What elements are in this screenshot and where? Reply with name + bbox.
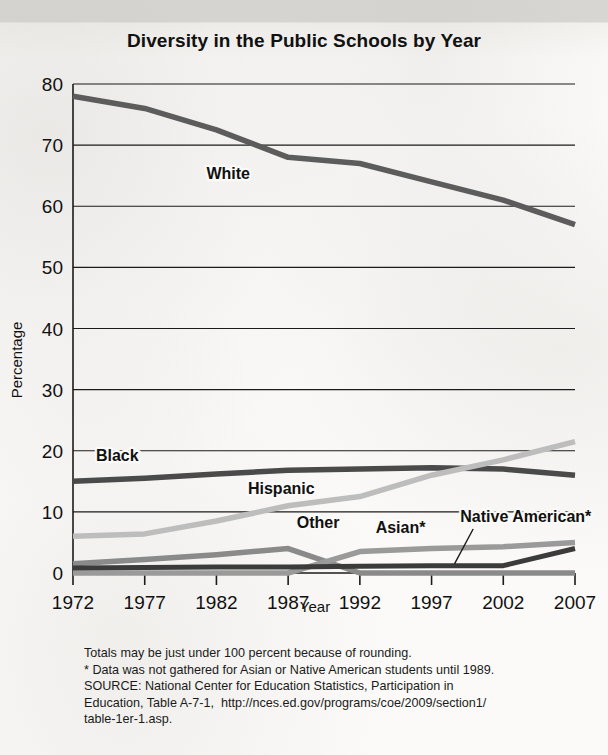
series-label-white: White <box>206 165 250 182</box>
x-tick-label: 2007 <box>554 592 596 613</box>
y-tick-label: 10 <box>42 502 63 523</box>
chart-plot-area: 01020304050607080 1972197719821987199219… <box>0 60 608 620</box>
x-tick-label: 1982 <box>195 592 237 613</box>
y-tick-label: 0 <box>52 563 63 584</box>
y-tick-label: 20 <box>42 441 63 462</box>
series-label-black: Black <box>96 447 139 464</box>
series-inline-labels-group: WhiteWhiteBlackBlackHispanicHispanicOthe… <box>96 165 592 536</box>
footnotes-block: Totals may be just under 100 percent bec… <box>84 645 554 728</box>
footnote-source-3: table-1er-1.asp. <box>84 711 554 728</box>
x-tick-label: 2002 <box>482 592 524 613</box>
footnote-source-2: Education, Table A-7-1, http://nces.ed.g… <box>84 695 554 712</box>
series-line-white <box>73 96 575 224</box>
series-label-asian: Asian* <box>376 519 427 536</box>
gridlines-group <box>73 84 575 512</box>
y-tick-label: 80 <box>42 74 63 95</box>
y-tick-label: 40 <box>42 319 63 340</box>
series-label-other: Other <box>297 514 340 531</box>
x-tick-label: 1972 <box>52 592 94 613</box>
y-tick-labels-group: 01020304050607080 <box>42 74 63 584</box>
series-label-hispanic: Hispanic <box>248 480 315 497</box>
footnote-source-1: SOURCE: National Center for Education St… <box>84 678 554 695</box>
x-tick-label: 1992 <box>339 592 381 613</box>
y-tick-label: 60 <box>42 196 63 217</box>
footnote-asterisk: * Data was not gathered for Asian or Nat… <box>84 662 554 679</box>
diversity-line-chart: 01020304050607080 1972197719821987199219… <box>0 60 608 620</box>
y-tick-label: 70 <box>42 135 63 156</box>
x-tick-label: 1977 <box>124 592 166 613</box>
series-label-native-american: Native American* <box>460 508 592 525</box>
y-axis-title: Percentage <box>8 322 25 399</box>
y-tick-label: 30 <box>42 380 63 401</box>
chart-title: Diversity in the Public Schools by Year <box>0 30 608 52</box>
x-tick-label: 1997 <box>410 592 452 613</box>
footnote-rounding: Totals may be just under 100 percent bec… <box>84 645 554 662</box>
series-line-black <box>73 468 575 481</box>
series-lines-group <box>73 96 575 573</box>
y-tick-label: 50 <box>42 257 63 278</box>
x-axis-title: Year <box>300 598 330 615</box>
